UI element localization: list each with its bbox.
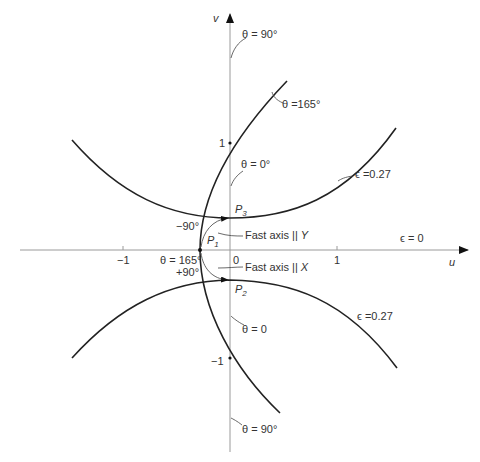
v-tick-neg1-marker	[228, 356, 231, 359]
label-theta-0-bottom: θ = 0	[242, 323, 267, 335]
label-p3: P3	[235, 203, 247, 218]
label-eps-0: ϵ = 0	[400, 232, 424, 244]
label-p2: P2	[235, 283, 247, 298]
point-p1-marker	[198, 248, 202, 252]
v-axis-label: v	[213, 12, 220, 24]
polarization-diagram: v u −1 0 1 1 −1 θ = 90° θ =165° θ = 0° ϵ…	[0, 0, 480, 462]
leader-theta90-top	[231, 38, 246, 58]
leader-theta90-bottom	[231, 418, 242, 425]
label-eps-027-lower: ϵ =0.27	[357, 310, 393, 322]
u-tick-label-1: 1	[334, 254, 340, 266]
label-eps-027-upper: ϵ =0.27	[355, 168, 391, 180]
v-tick-1-marker	[228, 141, 231, 144]
label-theta-90-top: θ = 90°	[242, 28, 277, 40]
label-theta-90-bottom: θ = 90°	[242, 423, 277, 435]
u-axis-label: u	[449, 256, 455, 268]
u-tick-label-0: 0	[233, 254, 239, 266]
label-fast-axis-y: Fast axis || Y	[245, 229, 309, 241]
label-theta-165-point: θ = 165°	[160, 254, 201, 266]
arc-p1-to-p2	[201, 253, 228, 280]
v-tick-label-neg1: −1	[211, 355, 224, 367]
leader-theta0-top	[231, 171, 243, 186]
label-theta-0-top: θ = 0°	[241, 158, 270, 170]
v-tick-label-1: 1	[219, 137, 225, 149]
u-tick-label-neg1: −1	[117, 254, 130, 266]
label-theta-165-curve: θ =165°	[282, 98, 320, 110]
label-minus-90: −90°	[176, 220, 199, 232]
label-plus-90: +90°	[176, 266, 199, 278]
leader-fast-x	[218, 267, 243, 268]
label-fast-axis-x: Fast axis || X	[245, 261, 309, 273]
upper-ellipticity-curve	[72, 128, 396, 218]
label-p1: P1	[207, 234, 219, 249]
